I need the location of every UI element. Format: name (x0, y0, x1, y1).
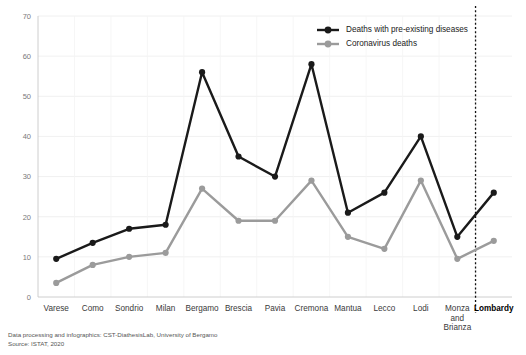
data-point (126, 254, 132, 260)
x-tick-brescia: Brescia (225, 304, 253, 313)
y-tick-70: 70 (23, 12, 31, 21)
data-point (345, 234, 351, 240)
x-tick-como: Como (82, 304, 104, 313)
data-point (199, 186, 205, 192)
x-tick-lombardy: Lombardy (474, 304, 514, 313)
data-point (381, 190, 387, 196)
data-point (381, 246, 387, 252)
data-point (272, 173, 278, 179)
y-axis-tick-labels: 010203040506070 (23, 12, 31, 302)
data-point (235, 153, 241, 159)
footer-line-1: Data processing and infographics: CST-Di… (8, 331, 217, 338)
data-point (345, 210, 351, 216)
data-point (418, 133, 424, 139)
x-tick-monza-and-brianza: Monza (445, 304, 470, 313)
legend-label-0: Deaths with pre-existing diseases (346, 25, 468, 34)
x-tick-monza-and-brianza: and (450, 314, 464, 323)
data-point (90, 262, 96, 268)
data-point (126, 226, 132, 232)
x-tick-varese: Varese (44, 304, 70, 313)
y-tick-50: 50 (23, 92, 31, 101)
y-tick-40: 40 (23, 132, 31, 141)
data-point (53, 280, 59, 286)
data-point (418, 177, 424, 183)
chart-legend: Deaths with pre-existing diseasesCoronav… (317, 25, 468, 48)
y-tick-30: 30 (23, 172, 31, 181)
gridlines (38, 16, 512, 297)
legend-label-1: Coronavirus deaths (346, 39, 417, 48)
data-point (163, 222, 169, 228)
y-tick-20: 20 (23, 213, 31, 222)
data-point (454, 256, 460, 262)
x-tick-monza-and-brianza: Brianza (443, 323, 471, 332)
data-point (272, 218, 278, 224)
chart-source-note: Data processing and infographics: CST-Di… (8, 330, 217, 349)
y-tick-60: 60 (23, 52, 31, 61)
x-tick-cremona: Cremona (295, 304, 329, 313)
y-tick-0: 0 (27, 293, 31, 302)
y-tick-10: 10 (23, 253, 31, 262)
line-chart: 010203040506070 VareseComoSondrioMilanBe… (0, 0, 526, 355)
legend-swatch-marker-1 (325, 41, 332, 48)
x-tick-milan: Milan (156, 304, 176, 313)
x-axis-tick-labels: VareseComoSondrioMilanBergamoBresciaPavi… (44, 304, 514, 332)
x-tick-sondrio: Sondrio (115, 304, 144, 313)
data-point (163, 250, 169, 256)
data-point (90, 240, 96, 246)
data-point (454, 234, 460, 240)
legend-swatch-marker-0 (325, 27, 332, 34)
data-point (53, 256, 59, 262)
x-tick-pavia: Pavia (265, 304, 286, 313)
data-point (308, 61, 314, 67)
x-tick-lodi: Lodi (413, 304, 429, 313)
chart-container: 010203040506070 VareseComoSondrioMilanBe… (0, 0, 526, 355)
x-tick-lecco: Lecco (373, 304, 395, 313)
data-point (491, 190, 497, 196)
footer-line-2: Source: ISTAT, 2020 (8, 340, 64, 347)
x-tick-bergamo: Bergamo (185, 304, 219, 313)
x-tick-mantua: Mantua (334, 304, 362, 313)
data-point (491, 238, 497, 244)
data-series (53, 61, 497, 286)
data-point (308, 177, 314, 183)
data-point (199, 69, 205, 75)
series-line-0 (56, 64, 494, 259)
data-point (235, 218, 241, 224)
axis-lines (38, 16, 512, 297)
